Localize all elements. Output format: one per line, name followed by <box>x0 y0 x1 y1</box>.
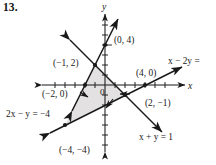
point-label-2-neg1: (2, −1) <box>145 99 171 108</box>
dot-neg1-2 <box>93 63 97 67</box>
origin-label: 0 <box>100 88 105 97</box>
point-label-0-4: (0, 4) <box>114 36 134 45</box>
figure-container: 13. <box>0 0 216 165</box>
equation-label-2x-minus-y: 2x − y = −4 <box>6 110 50 119</box>
equation-label-x-plus-y: x + y = 1 <box>139 133 173 142</box>
y-axis-label: y <box>102 2 106 12</box>
dot-neg4-neg4 <box>63 123 67 127</box>
dot-neg2-0 <box>83 83 87 87</box>
equation-label-x-minus-2y: x − 2y = <box>168 57 200 66</box>
point-label-neg4-neg4: (−4, −4) <box>59 146 90 155</box>
graph-canvas <box>0 0 216 165</box>
point-label-4-0: (4, 0) <box>136 69 156 78</box>
shaded-solution-region <box>65 65 125 125</box>
point-label-neg2-0: (−2, 0) <box>42 90 68 99</box>
x-axis-label: x <box>188 81 192 91</box>
dot-4-0 <box>143 83 147 87</box>
point-label-neg1-2: (−1, 2) <box>53 59 79 68</box>
